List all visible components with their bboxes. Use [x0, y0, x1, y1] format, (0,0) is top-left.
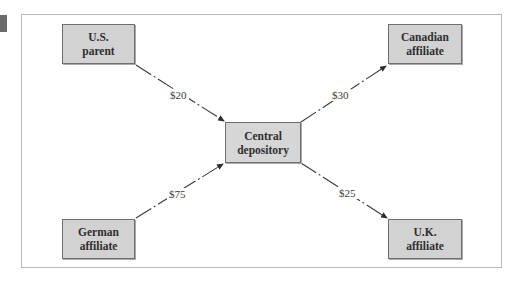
flow-amount-central-to-canadian: $30 — [330, 89, 351, 101]
flow-amount-us-to-central: $20 — [168, 89, 189, 101]
node-label-line: Canadian — [401, 30, 449, 44]
node-label-line: Central — [244, 129, 282, 143]
node-label-line: depository — [237, 143, 289, 157]
node-label-line: German — [78, 225, 119, 239]
flow-amount-central-to-uk: $25 — [337, 187, 358, 199]
flow-amount-german-to-central: $75 — [167, 188, 188, 200]
node-uk-affiliate: U.K. affiliate — [388, 219, 462, 259]
node-label-line: parent — [82, 44, 114, 58]
node-label-line: U.S. — [88, 30, 108, 44]
node-label-line: U.K. — [414, 225, 437, 239]
node-us-parent: U.S. parent — [62, 24, 135, 64]
node-label-line: affiliate — [406, 44, 444, 58]
node-central-depository: Central depository — [225, 122, 301, 163]
node-german-affiliate: German affiliate — [62, 219, 135, 259]
node-label-line: affiliate — [80, 239, 118, 253]
node-label-line: affiliate — [406, 239, 444, 253]
node-canadian-affiliate: Canadian affiliate — [388, 24, 462, 64]
